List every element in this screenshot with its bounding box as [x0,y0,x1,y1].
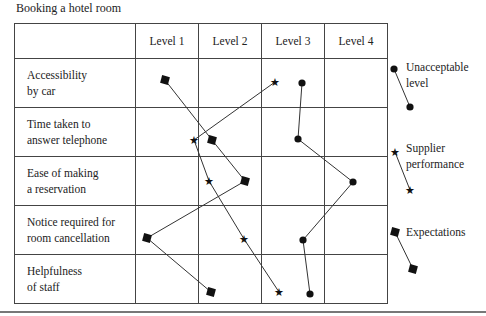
svg-text:★: ★ [204,175,214,188]
unacceptable-series [298,83,353,294]
svg-text:★: ★ [390,146,400,159]
svg-text:★: ★ [274,286,284,299]
svg-text:★: ★ [405,184,415,197]
svg-text:★: ★ [239,233,249,246]
expectations-series [147,80,245,292]
svg-text:★: ★ [189,134,199,147]
svg-text:★: ★ [270,76,280,89]
divider [0,311,486,313]
legend-supplier-label: Supplierperformance [406,140,464,172]
legend-unacceptable-label: Unacceptablelevel [406,59,469,91]
legend-expectations-label: Expectations [406,224,465,240]
expectations-markers [142,75,250,297]
